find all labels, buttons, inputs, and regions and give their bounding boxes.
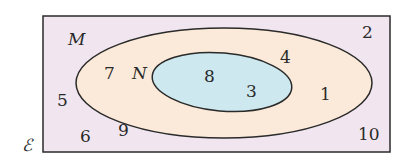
set-m-label: M [67, 29, 86, 49]
universal-set-label: ℰ [22, 135, 34, 155]
element-1: 1 [320, 84, 331, 104]
element-9: 9 [118, 120, 129, 140]
element-10: 10 [358, 124, 380, 144]
element-6: 6 [80, 126, 91, 146]
element-5: 5 [57, 90, 68, 110]
set-n-label: N [131, 63, 148, 83]
element-7: 7 [104, 63, 115, 83]
element-4: 4 [280, 47, 291, 67]
element-3: 3 [246, 81, 257, 101]
venn-diagram: M N ℰ 2 4 7 8 3 1 5 6 9 10 [0, 0, 413, 163]
element-2: 2 [362, 22, 373, 42]
element-8: 8 [204, 66, 215, 86]
